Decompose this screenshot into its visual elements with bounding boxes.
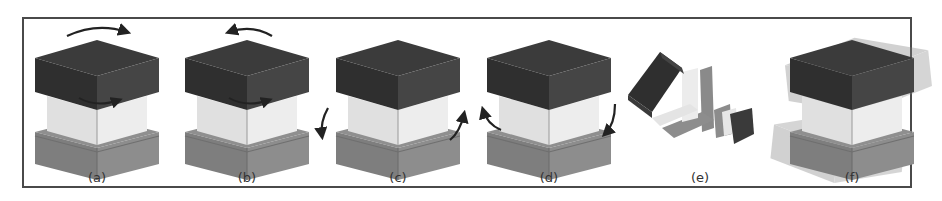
panel-label-b: (b) xyxy=(227,170,267,185)
cube-diagrams xyxy=(0,0,942,201)
panel-label-a: (a) xyxy=(77,170,117,185)
panel-label-d: (d) xyxy=(529,170,569,185)
panel-label-f: (f) xyxy=(832,170,872,185)
panel-b-cube xyxy=(185,29,309,180)
panel-e-exploded xyxy=(628,52,754,144)
panel-c-cube xyxy=(322,40,464,180)
panel-f-superimposed xyxy=(769,30,934,190)
panel-label-c: (c) xyxy=(378,170,418,185)
figure: (a) (b) (c) (d) (e) (f) xyxy=(0,0,942,201)
panel-d-cube xyxy=(483,40,615,180)
panel-a-cube xyxy=(35,28,159,180)
panel-label-e: (e) xyxy=(680,170,720,185)
